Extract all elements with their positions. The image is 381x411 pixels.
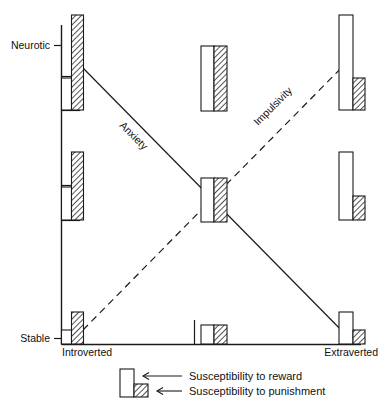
- bar-group-middle-right: [339, 152, 365, 220]
- anxiety-label: Anxiety: [118, 119, 151, 152]
- legend-swatch-reward: [120, 369, 134, 397]
- bar-punishment-middle-right: [353, 196, 365, 220]
- bar-reward-top-left: [62, 78, 72, 110]
- y-label-stable: Stable: [20, 332, 50, 344]
- legend-arrow-reward: [143, 373, 182, 380]
- bar-punishment-top-center: [214, 46, 227, 111]
- bar-reward-top-center: [201, 46, 214, 111]
- bar-punishment-top-left: [72, 15, 84, 110]
- bar-group-middle-center: [201, 178, 227, 222]
- bar-punishment-bottom-right: [353, 330, 365, 344]
- eysenck-personality-chart: Anxiety Impulsivity: [0, 0, 381, 411]
- bar-group-bottom-center: [201, 325, 227, 344]
- x-label-extraverted: Extraverted: [324, 346, 378, 358]
- chart-svg: Anxiety Impulsivity: [0, 0, 381, 411]
- bar-punishment-bottom-left: [72, 312, 84, 344]
- bar-group-top-right: [339, 15, 365, 110]
- bar-group-bottom-right: [339, 312, 365, 344]
- legend-label-punishment: Susceptibility to punishment: [189, 385, 325, 397]
- bar-reward-bottom-center: [201, 325, 214, 344]
- bar-reward-bottom-right: [339, 312, 353, 344]
- legend-label-reward: Susceptibility to reward: [189, 370, 302, 382]
- legend: Susceptibility to reward Susceptibility …: [120, 369, 325, 397]
- bar-group-top-left: [62, 15, 84, 110]
- legend-arrow-punishment: [157, 388, 182, 395]
- bar-group-bottom-left: [62, 312, 84, 344]
- bar-punishment-top-right: [353, 78, 365, 110]
- x-label-introverted: Introverted: [62, 346, 112, 358]
- bar-punishment-bottom-center: [214, 325, 227, 344]
- bar-reward-middle-center: [201, 178, 214, 222]
- bar-punishment-middle-left: [72, 152, 84, 220]
- bar-reward-middle-right: [339, 152, 353, 220]
- y-label-neurotic: Neurotic: [11, 39, 50, 51]
- bar-reward-middle-left: [62, 187, 72, 220]
- bar-group-top-center: [201, 46, 227, 111]
- bar-reward-bottom-left: [62, 330, 72, 344]
- legend-swatch-punishment: [134, 384, 148, 397]
- impulsivity-label: Impulsivity: [251, 84, 295, 128]
- bar-reward-top-right: [339, 15, 353, 110]
- bar-punishment-middle-center: [214, 178, 227, 222]
